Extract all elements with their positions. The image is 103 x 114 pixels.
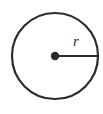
diagram-canvas: r [0,0,103,114]
radius-label: r [73,33,79,49]
circle-radius-diagram: r [0,0,103,114]
center-point-dot [51,52,59,60]
